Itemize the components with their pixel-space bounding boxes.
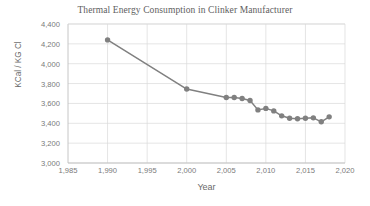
chart-container: Thermal Energy Consumption in Clinker Ma… — [0, 0, 370, 206]
plot-area — [0, 0, 370, 206]
data-series — [105, 37, 332, 124]
